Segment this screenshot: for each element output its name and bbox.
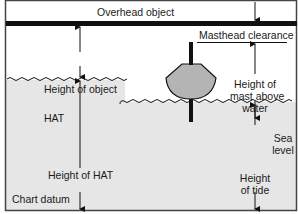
height-of-tide-line1: Height bbox=[236, 172, 274, 184]
height-of-mast-line3: water bbox=[230, 102, 280, 114]
hat-label: HAT bbox=[44, 112, 64, 124]
height-of-mast-line2: mast above bbox=[230, 90, 280, 102]
chart-datum-label: Chart datum bbox=[12, 193, 70, 205]
sea-level-line2: level bbox=[271, 144, 295, 156]
boat-mast bbox=[189, 42, 193, 65]
boat-hull bbox=[166, 64, 216, 99]
overhead-object-bar bbox=[6, 21, 297, 26]
sea-level-line1: Sea bbox=[271, 132, 295, 144]
masthead-clearance-label: Masthead clearance bbox=[199, 29, 294, 41]
sea-level-label: Sea level bbox=[271, 132, 295, 156]
height-of-mast-line1: Height of bbox=[230, 78, 280, 90]
height-of-tide-label: Height of tide bbox=[236, 172, 274, 196]
height-of-mast-label: Height of mast above water bbox=[230, 78, 280, 114]
height-of-hat-label: Height of HAT bbox=[48, 169, 113, 181]
height-of-tide-line2: of tide bbox=[236, 184, 274, 196]
overhead-object-label: Overhead object bbox=[97, 6, 174, 18]
height-of-object-label: Height of object bbox=[44, 83, 117, 95]
